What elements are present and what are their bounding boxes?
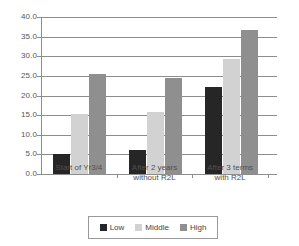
y-axis-tick-label-wrap: 0.0 [0, 170, 37, 178]
legend-swatch-middle-icon [135, 224, 142, 231]
y-axis-tick-stub [37, 37, 41, 38]
bar-chart: 40.035.030.025.020.015.010.05.00.0 Start… [0, 0, 299, 246]
y-axis-tick [268, 56, 277, 57]
legend: Low Middle High [88, 216, 218, 239]
gridline [41, 17, 268, 18]
x-axis-category-label: After 3 termswith R2L [192, 163, 268, 183]
y-axis-tick-stub [37, 154, 41, 155]
x-axis-label-line: Start of Yr3/4 [41, 163, 117, 173]
x-axis-label-line: After 2 years [117, 163, 193, 173]
gridline [41, 56, 268, 57]
gridline [41, 37, 268, 38]
y-axis-tick-label-wrap: 10.0 [0, 131, 37, 139]
y-axis-tick [268, 76, 277, 77]
legend-item-high: High [180, 224, 206, 232]
bar-middle [223, 59, 240, 174]
y-axis-tick [268, 135, 277, 136]
y-axis-tick [268, 96, 277, 97]
legend-label-high: High [190, 224, 206, 232]
y-axis-tick-stub [37, 96, 41, 97]
y-axis-tick [268, 154, 277, 155]
bar-high [241, 30, 258, 174]
y-axis-tick-label: 10.0 [3, 131, 37, 139]
y-axis-tick [268, 17, 277, 18]
y-axis-tick-label: 15.0 [3, 111, 37, 119]
y-axis-tick-label: 25.0 [3, 72, 37, 80]
legend-label-low: Low [110, 224, 125, 232]
y-axis-tick-label-wrap: 35.0 [0, 33, 37, 41]
y-axis-tick [268, 115, 277, 116]
x-axis-label-line: without R2L [117, 173, 193, 183]
legend-label-middle: Middle [145, 224, 169, 232]
y-axis-tick-stub [37, 115, 41, 116]
x-axis-tick [268, 174, 269, 178]
x-axis-category-label: Start of Yr3/4 [41, 163, 117, 173]
y-axis-tick-label: 5.0 [3, 150, 37, 158]
legend-item-low: Low [100, 224, 125, 232]
x-axis-label-line: After 3 terms [192, 163, 268, 173]
y-axis-tick-stub [37, 76, 41, 77]
plot-area [41, 17, 268, 174]
legend-swatch-low-icon [100, 224, 107, 231]
y-axis-tick-stub [37, 135, 41, 136]
legend-swatch-high-icon [180, 224, 187, 231]
y-axis-tick-label-wrap: 20.0 [0, 92, 37, 100]
y-axis-tick-label: 0.0 [3, 170, 37, 178]
x-axis-category-label: After 2 yearswithout R2L [117, 163, 193, 183]
y-axis-tick-stub [37, 17, 41, 18]
y-axis-tick-label-wrap: 5.0 [0, 150, 37, 158]
y-axis-tick-label-wrap: 30.0 [0, 52, 37, 60]
bar-high [165, 78, 182, 174]
legend-item-middle: Middle [135, 224, 169, 232]
y-axis-tick-stub [37, 174, 41, 175]
y-axis-tick [268, 37, 277, 38]
y-axis-tick-stub [37, 56, 41, 57]
y-axis-tick-label: 35.0 [3, 33, 37, 41]
y-axis-tick-label: 30.0 [3, 52, 37, 60]
y-axis-tick-label-wrap: 25.0 [0, 72, 37, 80]
y-axis-tick-label: 40.0 [3, 13, 37, 21]
bar-high [89, 74, 106, 174]
x-axis-label-line: with R2L [192, 173, 268, 183]
y-axis-tick-label-wrap: 40.0 [0, 13, 37, 21]
y-axis-tick-label: 20.0 [3, 92, 37, 100]
y-axis-tick [268, 174, 277, 175]
y-axis-tick-label-wrap: 15.0 [0, 111, 37, 119]
bar-low [205, 87, 222, 174]
